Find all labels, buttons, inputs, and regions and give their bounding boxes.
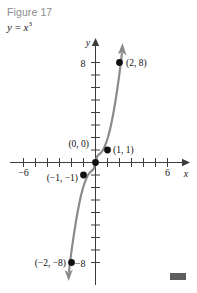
y-axis-label: y <box>85 37 91 48</box>
corner-block-mark <box>170 273 186 280</box>
x-tick-label-6: 6 <box>165 167 170 178</box>
data-point-neg1-neg1 <box>80 172 87 179</box>
data-point-0-0 <box>92 159 99 166</box>
data-point-2-8 <box>116 59 123 66</box>
y-axis-arrowhead-icon <box>92 38 99 46</box>
point-label-0-0: (0, 0) <box>68 139 89 150</box>
y-tick-label-8: 8 <box>81 58 86 69</box>
point-label-2-8: (2, 8) <box>126 58 147 69</box>
x-tick-label-neg6: −6 <box>18 167 29 178</box>
coordinate-plot: 8 −8 −6 6 y x (2, 8) (1, 1) (0, 0) (−1, … <box>0 0 197 293</box>
figure-container: Figure 17 y = x3 <box>0 0 197 293</box>
point-label-1-1: (1, 1) <box>113 145 134 156</box>
x-axis-arrowhead-icon <box>182 159 190 166</box>
point-label-neg1-neg1: (−1, −1) <box>47 173 78 184</box>
x-axis-label: x <box>183 168 189 179</box>
point-label-neg2-neg8: (−2, −8) <box>35 258 66 269</box>
data-point-1-1 <box>104 147 111 154</box>
y-tick-label-neg8: −8 <box>75 258 86 269</box>
